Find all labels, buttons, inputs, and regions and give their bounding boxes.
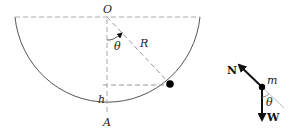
free-body-diagram: N m θ W xyxy=(227,64,284,124)
mass-point xyxy=(259,84,265,90)
label-O: O xyxy=(103,3,112,16)
label-fbd-theta: θ xyxy=(266,96,273,109)
label-R: R xyxy=(139,37,148,50)
label-m: m xyxy=(267,74,277,87)
label-A: A xyxy=(102,116,111,129)
diagram-canvas: O θ R h A N m θ W xyxy=(0,0,299,135)
label-h: h xyxy=(98,93,105,106)
label-N: N xyxy=(227,64,237,77)
normal-force-arrow xyxy=(239,65,262,87)
label-W: W xyxy=(266,111,280,124)
hemispherical-bowl: O θ R h A xyxy=(15,3,200,129)
particle xyxy=(166,80,174,88)
label-theta: θ xyxy=(114,40,121,53)
